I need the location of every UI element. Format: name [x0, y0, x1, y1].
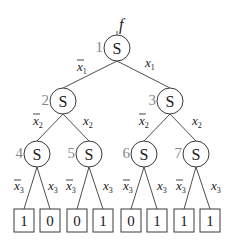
svg-text:S: S — [166, 93, 175, 110]
leaf-1: 0 — [40, 209, 60, 232]
edge-label-not-x3-6: x3 — [122, 178, 133, 195]
edge-1-3 — [117, 61, 170, 88]
svg-text:2: 2 — [42, 92, 50, 108]
svg-text:x2: x2 — [82, 113, 93, 130]
edge-label-x1: x1 — [144, 55, 155, 72]
svg-text:S: S — [85, 146, 94, 163]
node-1: S 1 — [96, 35, 131, 61]
leaf-3: 1 — [93, 209, 113, 232]
svg-text:4: 4 — [16, 145, 24, 161]
edge-7-leaf7 — [196, 167, 210, 209]
edge-7-leaf6 — [184, 167, 196, 209]
svg-text:S: S — [113, 40, 122, 57]
svg-text:0: 0 — [46, 213, 54, 229]
svg-text:3: 3 — [149, 92, 157, 108]
svg-text:1: 1 — [99, 213, 107, 229]
edge-6-leaf4 — [131, 167, 144, 209]
svg-text:6: 6 — [123, 145, 131, 161]
svg-text:0: 0 — [73, 213, 81, 229]
edge-6-leaf5 — [144, 167, 157, 209]
edge-label-not-x2-left: x2 — [32, 113, 43, 130]
svg-text:x3: x3 — [47, 178, 58, 195]
edge-label-not-x3-4: x3 — [13, 178, 24, 195]
edge-label-x3-4: x3 — [47, 178, 58, 195]
svg-text:x3: x3 — [122, 178, 133, 195]
svg-text:S: S — [140, 146, 149, 163]
svg-text:1: 1 — [20, 213, 28, 229]
leaf-5: 1 — [147, 209, 167, 232]
svg-text:x2: x2 — [138, 113, 149, 130]
svg-text:S: S — [59, 93, 68, 110]
svg-text:7: 7 — [175, 145, 183, 161]
svg-text:x2: x2 — [191, 113, 202, 130]
svg-text:x3: x3 — [65, 178, 76, 195]
svg-text:1: 1 — [96, 39, 104, 55]
decision-diagram: f x1 x1 x2 x2 x2 x2 x3 x3 — [0, 0, 235, 247]
edge-4-leaf0 — [24, 167, 37, 209]
svg-text:S: S — [192, 146, 201, 163]
leaf-0: 1 — [14, 209, 34, 232]
svg-text:1: 1 — [153, 213, 161, 229]
node-3: S 3 — [149, 88, 184, 114]
leaf-6: 1 — [174, 209, 194, 232]
node-2: S 2 — [42, 88, 77, 114]
edge-label-x2-left: x2 — [82, 113, 93, 130]
svg-text:x3: x3 — [13, 178, 24, 195]
svg-text:1: 1 — [206, 213, 214, 229]
edge-label-not-x1: x1 — [76, 59, 87, 76]
svg-text:x3: x3 — [175, 178, 186, 195]
leaf-4: 0 — [121, 209, 141, 232]
node-7: S 7 — [175, 141, 210, 167]
svg-text:1: 1 — [180, 213, 188, 229]
svg-text:5: 5 — [68, 145, 76, 161]
node-4: S 4 — [16, 141, 51, 167]
edge-label-not-x3-7: x3 — [175, 178, 186, 195]
leaf-2: 0 — [67, 209, 87, 232]
svg-text:x3: x3 — [210, 178, 221, 195]
svg-text:S: S — [33, 146, 42, 163]
edge-label-x3-6: x3 — [156, 178, 167, 195]
edge-label-x2-right: x2 — [191, 113, 202, 130]
edge-label-x3-7: x3 — [210, 178, 221, 195]
node-5: S 5 — [68, 141, 103, 167]
edge-1-2 — [63, 61, 117, 88]
node-6: S 6 — [123, 141, 158, 167]
svg-text:x3: x3 — [102, 178, 113, 195]
edge-label-not-x2-right: x2 — [138, 113, 149, 130]
edge-5-leaf2 — [77, 167, 89, 209]
edge-5-leaf3 — [89, 167, 103, 209]
edge-label-x3-5: x3 — [102, 178, 113, 195]
svg-text:x1: x1 — [144, 55, 155, 72]
svg-text:x3: x3 — [156, 178, 167, 195]
function-label: f — [119, 16, 126, 34]
svg-text:x1: x1 — [76, 59, 87, 76]
edge-label-not-x3-5: x3 — [65, 178, 76, 195]
svg-text:x2: x2 — [32, 113, 43, 130]
leaf-7: 1 — [200, 209, 220, 232]
svg-text:0: 0 — [127, 213, 135, 229]
